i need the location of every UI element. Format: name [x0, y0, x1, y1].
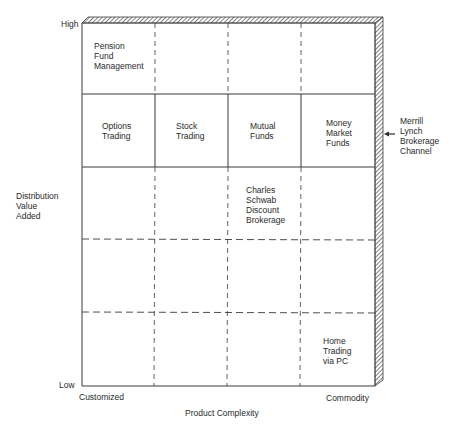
hatched-right-border	[375, 17, 383, 386]
y-axis-title: Distribution Value Added	[16, 191, 59, 221]
x-axis-left-label: Customized	[79, 392, 124, 402]
x-axis-right-label: Commodity	[326, 393, 369, 403]
col-divider-2-lower	[227, 167, 228, 386]
cell-options-trading: Options Trading	[102, 121, 131, 141]
col-divider-1-lower	[154, 167, 155, 386]
cell-stock-trading: Stock Trading	[176, 121, 205, 141]
callout-merrill-lynch-brokerage-channel: Merrill Lynch Brokerage Channel	[400, 116, 439, 156]
cell-mutual-funds: Mutual Funds	[250, 121, 276, 141]
row-divider-dashed-2	[82, 312, 375, 313]
x-axis-title: Product Complexity	[185, 408, 259, 418]
cell-charles-schwab-discount-brokerage: Charles Schwab Discount Brokerage	[246, 185, 285, 225]
row-divider-dashed-1	[82, 239, 375, 240]
y-axis-low-label: Low	[59, 380, 75, 390]
cell-home-trading-via-pc: Home Trading via PC	[323, 336, 352, 366]
matrix-diagram	[0, 0, 454, 428]
cell-money-market-funds: Money Market Funds	[326, 118, 352, 148]
callout-arrow-head-icon	[384, 132, 389, 137]
y-axis-high-label: High	[61, 19, 78, 29]
cell-pension-fund-management: Pension Fund Management	[94, 41, 144, 71]
hatched-top-border	[82, 17, 383, 23]
col-divider-3-lower	[300, 167, 301, 386]
